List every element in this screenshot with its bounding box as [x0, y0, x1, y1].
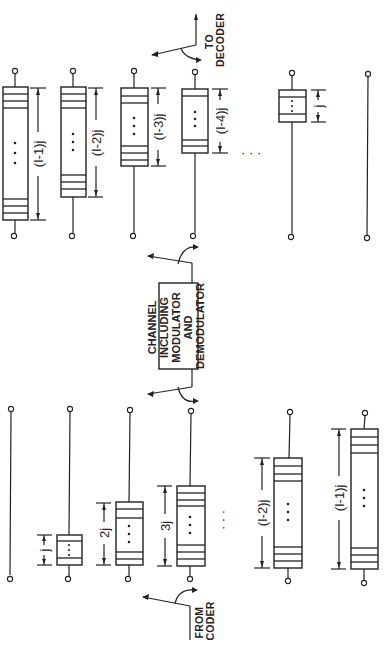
interleaver-branch-1	[7, 406, 13, 581]
deinterleaver-branch-2: (I-2)j	[61, 68, 104, 238]
from-coder-label: FROM CODER	[193, 601, 216, 640]
deinterleaver-branch-4: (I-4)j · · ·	[182, 69, 261, 238]
ellipsis: · · ·	[215, 510, 230, 530]
interleaver-branch-3: 2j	[96, 407, 143, 581]
terminal-icon	[12, 68, 17, 73]
interleaver-branch-4: 3j · · ·	[157, 408, 230, 581]
delay-label: 3j	[158, 521, 173, 531]
delay-label: (I-3)j	[151, 114, 166, 141]
deinterleaver-branch-5: j	[279, 70, 326, 239]
shift-register	[182, 89, 208, 153]
delay-label: (I-2)j	[89, 130, 104, 157]
arrow-up-icon	[194, 13, 198, 20]
deinterleaver-branch-3: (I-3)j	[121, 68, 166, 238]
deinterleaver: (I-1)j (I-2)j	[3, 13, 371, 241]
channel-label: CHANNEL INCLUDING MODULATOR AND DEMODULA…	[146, 283, 206, 369]
from-coder-commutator[interactable]: FROM CODER	[142, 587, 216, 640]
interleaver-diagram: (I-1)j (I-2)j	[0, 0, 388, 645]
delay-label: (I-2)j	[255, 500, 270, 527]
terminal-icon	[11, 233, 16, 238]
interleaver-branch-5: (I-2)j	[254, 409, 302, 583]
shift-register	[177, 486, 205, 566]
ellipsis: · · ·	[241, 145, 261, 160]
delay-label: (I-1)j	[332, 485, 347, 512]
interleaver: j 2j	[7, 406, 378, 640]
interleaver-branch-6: (I-1)j	[331, 410, 378, 585]
delay-label: 2j	[97, 528, 112, 538]
deinterleaver-branch-1: (I-1)j	[3, 68, 46, 238]
channel-block: CHANNEL INCLUDING MODULATOR AND DEMODULA…	[146, 244, 206, 404]
interleaver-branch-2: j	[37, 406, 82, 581]
to-decoder-label: TO DECODER	[203, 13, 226, 67]
delay-label: (I-4)j	[213, 108, 228, 135]
to-decoder-commutator[interactable]: TO DECODER	[151, 13, 226, 67]
delay-label: (I-1)j	[31, 141, 46, 168]
delay-label: j	[37, 548, 52, 552]
deinterleaver-branch-6	[364, 71, 370, 240]
delay-label: j	[311, 104, 326, 108]
